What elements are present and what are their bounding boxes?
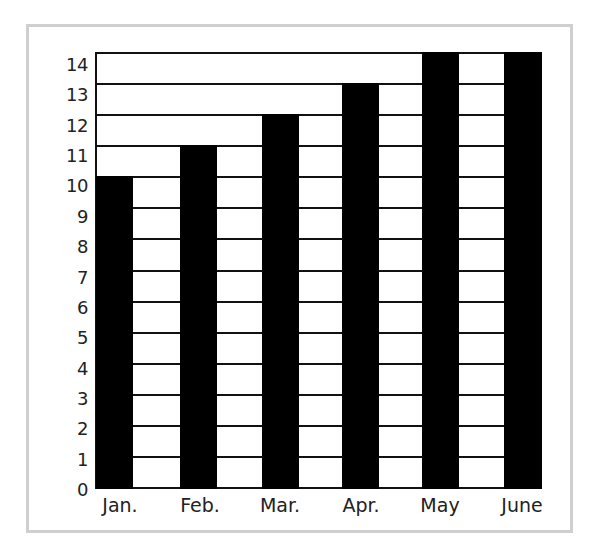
x-tick-label: Apr. (321, 493, 401, 517)
y-tick-label: 11 (48, 146, 88, 166)
plot-area: 101112131414 (95, 52, 542, 489)
gridline (95, 270, 542, 272)
y-tick-label: 6 (48, 298, 88, 318)
y-tick-label: 8 (48, 237, 88, 257)
gridline (95, 363, 542, 365)
y-tick-label: 3 (48, 389, 88, 409)
y-tick-label: 7 (48, 268, 88, 288)
x-tick-label: May (400, 493, 480, 517)
y-tick-label: 14 (48, 55, 88, 75)
gridline (95, 394, 542, 396)
y-tick-label: 10 (48, 176, 88, 196)
y-tick-label: 13 (48, 85, 88, 105)
y-tick-label: 5 (48, 328, 88, 348)
bar: 14 (422, 52, 459, 489)
gridline (95, 176, 542, 178)
x-tick-label: June (482, 493, 562, 517)
gridline (95, 238, 542, 240)
gridline (95, 52, 542, 54)
y-tick-label: 9 (48, 207, 88, 227)
bar: 14 (504, 52, 542, 489)
gridline (95, 425, 542, 427)
bar: 12 (262, 114, 299, 489)
x-tick-label: Mar. (240, 493, 320, 517)
gridline (95, 207, 542, 209)
gridline (95, 456, 542, 458)
bar: 13 (342, 83, 379, 489)
bar: 10 (96, 176, 133, 489)
bar: 11 (180, 145, 217, 489)
gridline (95, 83, 542, 85)
x-tick-label: Jan. (80, 493, 160, 517)
gridline (95, 301, 542, 303)
y-tick-label: 2 (48, 419, 88, 439)
y-tick-label: 4 (48, 359, 88, 379)
gridline (95, 487, 542, 489)
gridline (95, 114, 542, 116)
gridline (95, 145, 542, 147)
gridline (95, 332, 542, 334)
x-tick-label: Feb. (160, 493, 240, 517)
y-tick-label: 1 (48, 450, 88, 470)
y-tick-label: 12 (48, 116, 88, 136)
